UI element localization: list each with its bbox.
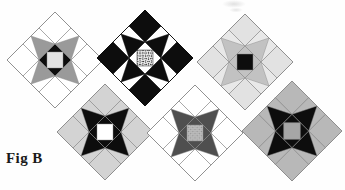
scan-smudge-secondary-icon [229, 8, 243, 13]
quilt-blocks-figure [0, 0, 345, 190]
scan-smudge-icon [222, 0, 246, 8]
figure-label: Fig B [6, 151, 43, 166]
